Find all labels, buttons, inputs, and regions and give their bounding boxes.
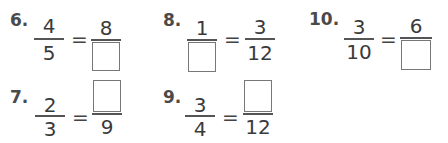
problem-number: 9.	[163, 87, 181, 107]
problem-number: 6.	[10, 10, 28, 30]
fraction-bar	[34, 38, 64, 40]
denominator: 12	[244, 43, 276, 63]
numerator: 3	[343, 17, 375, 37]
problem-number: 10.	[309, 9, 339, 29]
numerator: 3	[186, 95, 214, 115]
answer-box[interactable]	[401, 40, 431, 70]
problem-number: 7.	[10, 87, 28, 107]
denominator: 10	[343, 42, 375, 62]
equals-sign: =	[380, 29, 397, 49]
denominator: 5	[35, 43, 63, 63]
answer-box[interactable]	[188, 42, 216, 72]
numerator: 2	[36, 95, 64, 115]
equals-sign: =	[71, 29, 88, 49]
equals-sign: =	[224, 29, 241, 49]
answer-box[interactable]	[244, 80, 272, 112]
equals-sign: =	[72, 107, 89, 127]
numerator: 3	[244, 17, 276, 37]
fraction-bar	[187, 39, 217, 41]
fraction-bar	[400, 37, 432, 39]
numerator: 6	[401, 16, 431, 36]
equals-sign: =	[222, 107, 239, 127]
answer-box[interactable]	[92, 42, 120, 71]
problem-number: 8.	[163, 10, 181, 30]
numerator: 4	[35, 16, 63, 36]
denominator: 3	[36, 119, 64, 139]
answer-box[interactable]	[93, 80, 121, 112]
denominator: 9	[93, 117, 121, 137]
numerator: 8	[92, 18, 120, 38]
fraction-bar	[245, 38, 275, 40]
denominator: 4	[186, 119, 214, 139]
denominator: 12	[242, 117, 274, 137]
numerator: 1	[188, 18, 216, 38]
fraction-bar	[91, 39, 121, 41]
